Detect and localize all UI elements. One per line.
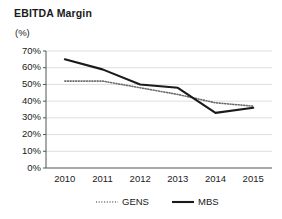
series-line-gens	[65, 81, 253, 106]
y-tick-label: 40%	[22, 95, 42, 106]
x-tick-label: 2013	[167, 173, 188, 184]
x-tick-label: 2012	[130, 173, 151, 184]
y-tick-label: 60%	[22, 61, 42, 72]
chart-svg: 0%10%20%30%40%50%60%70%20102011201220132…	[0, 0, 282, 219]
legend-label-mbs: MBS	[198, 196, 219, 207]
legend-label-gens: GENS	[122, 196, 149, 207]
x-tick-label: 2014	[205, 173, 226, 184]
y-tick-label: 10%	[22, 145, 42, 156]
y-tick-label: 20%	[22, 128, 42, 139]
y-tick-label: 70%	[22, 45, 42, 56]
y-tick-label: 30%	[22, 111, 42, 122]
x-tick-label: 2015	[243, 173, 264, 184]
plot-area: 0%10%20%30%40%50%60%70%20102011201220132…	[0, 0, 282, 219]
x-tick-label: 2011	[92, 173, 112, 184]
y-tick-label: 50%	[22, 78, 42, 89]
ebitda-margin-chart: EBITDA Margin (%) 0%10%20%30%40%50%60%70…	[0, 0, 282, 219]
x-tick-label: 2010	[54, 173, 75, 184]
y-tick-label: 0%	[27, 162, 41, 173]
